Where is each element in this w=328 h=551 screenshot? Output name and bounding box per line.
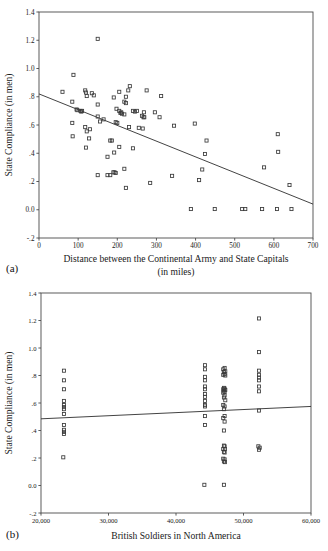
x-axis-title: British Soldiers in North America [111,530,241,541]
data-point [189,207,192,210]
data-point [71,121,74,124]
data-point [241,207,244,210]
data-point [106,155,109,158]
data-point [84,146,87,149]
data-point [62,404,65,407]
x-tick-label: 50,000 [234,517,253,524]
y-tick-label: .2 [29,178,35,186]
data-point [71,100,74,103]
data-point [203,375,206,378]
data-point [124,186,127,189]
x-tick-label: 40,000 [167,517,186,524]
y-tick-label: 0.0 [28,482,37,489]
x-tick-label: 500 [229,242,240,250]
data-point [62,406,65,409]
data-point [142,111,145,114]
data-point [275,207,278,210]
plot-frame [41,293,311,513]
data-point [257,351,260,354]
y-tick-label: 1.0 [28,345,37,352]
y-tick-label: 1.0 [26,65,35,73]
data-point [203,415,206,418]
data-point [290,207,293,210]
data-point [244,207,247,210]
y-tick-label: .2 [32,455,37,462]
data-point [96,174,99,177]
data-point [257,390,260,393]
data-point [127,126,130,129]
data-point [72,73,75,76]
data-point [203,368,206,371]
data-point [277,150,280,153]
data-point [141,127,144,130]
chart-panel-b: -.20.0.2.4.6.81.01.21.420,00030,00040,00… [0,285,328,551]
data-point [263,166,266,169]
data-point [172,124,175,127]
data-point [193,122,196,125]
data-point [222,429,225,432]
data-point [203,152,206,155]
x-tick-label: 20,000 [32,517,51,524]
x-axis-title: Distance between the Continental Army an… [63,253,288,264]
data-point [85,94,88,97]
data-points [62,317,262,486]
y-tick-label: 1.2 [28,317,36,324]
data-point [96,103,99,106]
x-tick-label: 300 [151,242,162,250]
data-point [62,432,65,435]
data-point [276,133,279,136]
x-axis-title-line2: (in miles) [157,266,194,278]
data-point [113,151,116,154]
data-point [62,456,65,459]
data-point [203,483,206,486]
y-tick-label: .8 [32,372,38,379]
x-tick-label: 200 [112,242,123,250]
data-point [123,167,126,170]
scatter-plot-distance-vs-compliance: -.20.0.2.4.6.81.01.21.401002003004005006… [0,0,328,285]
data-point [96,37,99,40]
x-tick-label: 400 [190,242,201,250]
data-point [85,130,88,133]
data-point [257,385,260,388]
x-tick-label: 30,000 [99,517,118,524]
data-point [118,145,121,148]
data-point [99,120,102,123]
data-point [62,428,65,431]
data-point [203,399,206,402]
y-tick-label: 1.2 [26,37,35,45]
data-point [205,139,208,142]
data-point [171,174,174,177]
data-point [288,183,291,186]
y-tick-label: .4 [29,150,35,158]
data-point [118,90,121,93]
scatter-plot-soldiers-vs-compliance: -.20.0.2.4.6.81.01.21.420,00030,00040,00… [0,285,328,551]
data-point [84,126,87,129]
data-point [62,369,65,372]
y-axis-title: State Compliance (in men) [3,73,15,176]
x-tick-label: 60,000 [302,517,321,524]
regression-line [41,406,311,418]
data-point [149,181,152,184]
y-tick-label: .4 [32,427,38,434]
y-tick-label: 1.4 [26,9,35,17]
data-point [257,409,260,412]
data-point [160,94,163,97]
panel-label-b: (b) [6,528,19,540]
data-point [127,89,130,92]
data-point [257,369,260,372]
y-tick-label: .8 [29,93,35,101]
chart-panel-a: -.20.0.2.4.6.81.01.21.401002003004005006… [0,0,328,285]
data-point [62,408,65,411]
data-point [153,111,156,114]
y-tick-label: .6 [32,400,38,407]
data-point [203,364,206,367]
y-tick-label: 1.4 [28,290,37,297]
data-point [158,116,161,119]
y-tick-label: 0.0 [26,206,35,214]
x-tick-label: 600 [268,242,279,250]
data-point [203,423,206,426]
y-tick-label: -.2 [27,235,35,243]
data-point [88,137,91,140]
data-point [124,95,127,98]
x-tick-label: 100 [73,242,84,250]
